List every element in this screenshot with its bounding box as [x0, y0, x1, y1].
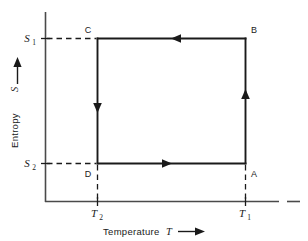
cycle-path [98, 39, 246, 164]
point-label-c: C [85, 25, 92, 35]
x-tick-label-t1-subscript: 1 [247, 213, 251, 222]
right-arrow-icon [178, 227, 205, 235]
point-label-a: A [251, 169, 257, 179]
x-axis-title: Temperature [103, 226, 160, 237]
x-axis-tick-labels: T 2 T 1 [91, 207, 251, 222]
x-axis-symbol: T [166, 226, 173, 237]
up-arrow-icon [13, 57, 21, 84]
arrowhead-bottom-right [162, 159, 172, 168]
y-axis-tick-labels: S 1 S 2 [24, 32, 36, 172]
point-label-d: D [85, 169, 92, 179]
x-axis-title-group: Temperature T [103, 226, 205, 237]
leader-lines [47, 39, 246, 200]
y-axis-symbol: S [9, 86, 20, 92]
y-axis-title-group: Entropy S [9, 57, 22, 148]
tick-marks [41, 39, 246, 207]
arrowhead-left-down [93, 103, 102, 113]
y-tick-label-s2: S [24, 157, 30, 169]
direction-arrowheads [93, 34, 250, 168]
y-tick-label-s1-subscript: 1 [32, 38, 36, 47]
arrowhead-right-up [241, 89, 250, 99]
y-tick-label-s1: S [24, 32, 30, 44]
y-tick-label-s2-subscript: 2 [32, 163, 36, 172]
arrowhead-top-left [171, 34, 181, 43]
axis-lines [45, 12, 300, 202]
y-axis-title: Entropy [9, 113, 20, 148]
x-tick-label-t2: T [91, 207, 98, 219]
point-label-b: B [251, 25, 257, 35]
diagram-canvas: C B D A S 1 S 2 T 2 T 1 Entropy S [0, 0, 308, 241]
x-tick-label-t1: T [239, 207, 246, 219]
carnot-cycle-figure: C B D A S 1 S 2 T 2 T 1 Entropy S [0, 0, 308, 241]
x-tick-label-t2-subscript: 2 [99, 213, 103, 222]
